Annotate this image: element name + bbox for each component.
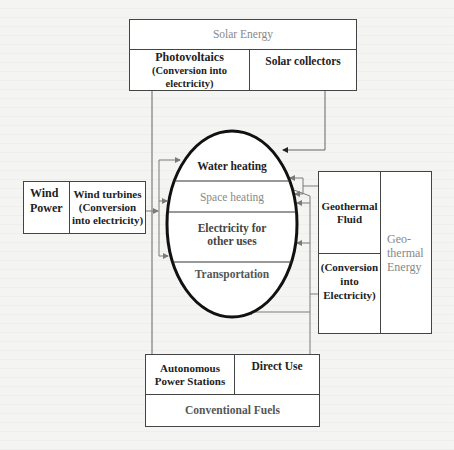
photovoltaics-title: Photovoltaics [155, 51, 224, 64]
solar-energy-box: Solar Energy Photovoltaics (Conversion i… [129, 19, 357, 91]
geothermal-conversion-cell: (Conversion into Electricity) [319, 254, 381, 333]
photovoltaics-subtitle: (Conversion into electricity) [130, 64, 249, 90]
geothermal-fluid-cell: Geothermal Fluid [319, 172, 381, 254]
conventional-fuels-box: Autonomous Power Stations Direct Use Con… [145, 354, 320, 427]
use-water-heating: Water heating [172, 160, 292, 173]
use-space-heating: Space heating [172, 191, 292, 204]
autonomous-power-stations-cell: Autonomous Power Stations [146, 355, 235, 395]
geothermal-energy-label: Geo- thermal Energy [381, 172, 431, 333]
conventional-fuels-label: Conventional Fuels [146, 395, 319, 426]
wind-power-box: Wind Power Wind turbines (Conversion int… [23, 181, 146, 234]
photovoltaics-cell: Photovoltaics (Conversion into electrici… [130, 50, 250, 90]
wind-power-label: Wind Power [24, 182, 70, 233]
solar-collectors-cell: Solar collectors [250, 50, 356, 72]
use-electricity-other: Electricity for other uses [172, 222, 292, 248]
geothermal-energy-box: Geothermal Fluid (Conversion into Electr… [318, 171, 432, 334]
use-transportation: Transportation [172, 268, 292, 281]
wind-turbines-cell: Wind turbines (Conversion into electrici… [70, 182, 145, 233]
solar-energy-header: Solar Energy [130, 20, 356, 50]
direct-use-cell: Direct Use [235, 355, 319, 395]
